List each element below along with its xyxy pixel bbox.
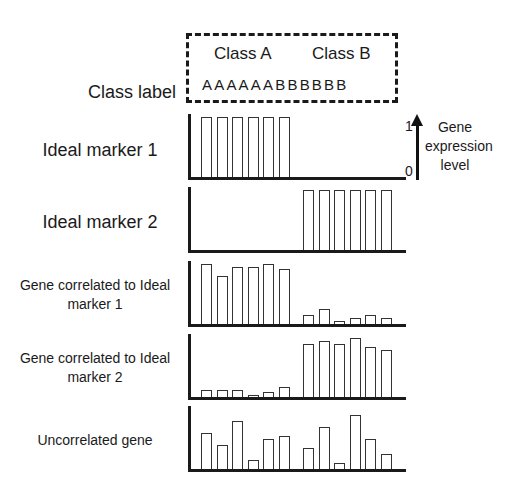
bar-chart-ideal-marker-1 [188, 114, 406, 180]
bar-b-7 [303, 344, 314, 397]
bar-a-2 [217, 390, 228, 397]
bar-b-9 [334, 321, 345, 324]
row-label-uncorrelated: Uncorrelated gene [10, 431, 180, 450]
bar-a-2 [217, 276, 228, 324]
row-label-correlated-2: Gene correlated to Ideal marker 2 [10, 349, 180, 387]
bar-b-7 [303, 190, 314, 250]
bar-a-3 [232, 390, 243, 397]
bar-b-7 [303, 448, 314, 469]
x-axis [188, 250, 406, 253]
bar-a-3 [232, 117, 243, 177]
bar-b-11 [365, 347, 376, 397]
bar-b-11 [365, 190, 376, 250]
bar-b-12 [381, 318, 392, 324]
bar-b-8 [319, 190, 330, 250]
y-axis [188, 406, 191, 472]
bar-a-1 [201, 433, 212, 469]
bar-b-12 [381, 350, 392, 397]
scale-tick-0: 0 [405, 163, 413, 179]
bar-a-4 [248, 267, 259, 324]
bar-a-5 [263, 392, 274, 397]
bar-chart-ideal-marker-2 [188, 187, 406, 253]
bar-b-11 [365, 315, 376, 324]
x-axis [188, 397, 406, 400]
bar-chart-correlated-2 [188, 334, 406, 400]
bar-b-10 [350, 190, 361, 250]
row-label-ideal-marker-1: Ideal marker 1 [20, 140, 180, 160]
bar-a-5 [263, 264, 274, 324]
bar-b-7 [303, 315, 314, 324]
bar-b-10 [350, 415, 361, 469]
bar-a-2 [217, 445, 228, 469]
bar-b-10 [350, 338, 361, 397]
bar-a-4 [248, 395, 259, 397]
bar-b-12 [381, 190, 392, 250]
y-axis [188, 334, 191, 400]
bar-a-5 [263, 117, 274, 177]
bar-a-2 [217, 117, 228, 177]
arrow-up-icon [416, 118, 419, 180]
class-sequence: AAAAAABBBBBB [202, 76, 348, 93]
x-axis [188, 324, 406, 327]
x-axis [188, 177, 406, 180]
row-label-correlated-1: Gene correlated to Ideal marker 1 [10, 276, 180, 314]
bar-b-10 [350, 318, 361, 324]
class-b-title: Class B [312, 44, 371, 64]
bar-a-1 [201, 264, 212, 324]
bar-b-8 [319, 427, 330, 469]
bar-a-1 [201, 390, 212, 397]
bar-b-12 [381, 454, 392, 469]
bar-a-6 [279, 117, 290, 177]
scale-label: Gene expression level [425, 118, 485, 175]
bar-a-3 [232, 267, 243, 324]
x-axis [188, 469, 406, 472]
bar-b-9 [334, 190, 345, 250]
y-axis [188, 261, 191, 327]
bar-a-6 [279, 436, 290, 469]
bar-a-3 [232, 421, 243, 469]
bar-b-9 [334, 463, 345, 469]
bar-a-4 [248, 460, 259, 469]
row-label-ideal-marker-2: Ideal marker 2 [20, 212, 180, 232]
bar-chart-correlated-1 [188, 261, 406, 327]
bar-b-8 [319, 309, 330, 324]
class-a-title: Class A [214, 44, 272, 64]
bar-a-6 [279, 269, 290, 324]
bar-chart-uncorrelated [188, 406, 406, 472]
bar-b-11 [365, 439, 376, 469]
bar-a-5 [263, 439, 274, 469]
bar-a-6 [279, 387, 290, 397]
y-axis [188, 114, 191, 180]
bar-b-9 [334, 344, 345, 397]
bar-a-1 [201, 117, 212, 177]
bar-b-8 [319, 341, 330, 397]
bar-a-4 [248, 117, 259, 177]
y-axis [188, 187, 191, 253]
class-label-text: Class label [22, 82, 182, 102]
